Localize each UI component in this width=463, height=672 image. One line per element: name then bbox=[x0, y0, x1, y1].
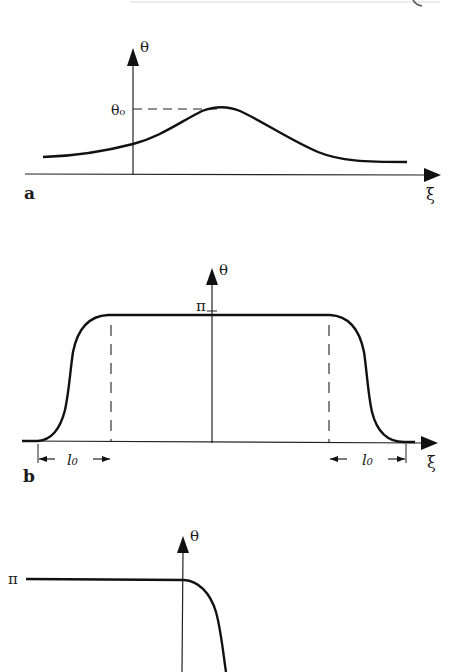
panel-b-y-arrow-icon bbox=[206, 268, 218, 285]
figure-canvas: θ θ₀ a ξ l₀ l₀ θ π b ξ bbox=[0, 0, 463, 672]
panel-a: θ θ₀ a ξ bbox=[24, 38, 441, 204]
panel-c: θ π bbox=[8, 527, 226, 672]
panel-b-x-arrow-icon bbox=[421, 436, 438, 450]
panel-a-theta-label: θ bbox=[140, 38, 149, 56]
panel-c-y-axis bbox=[182, 552, 183, 672]
panel-b-curve bbox=[22, 315, 415, 442]
panel-c-theta-label: θ bbox=[190, 527, 199, 545]
panel-b: l₀ l₀ θ π b ξ bbox=[22, 261, 438, 486]
panel-b-pi-label: π bbox=[196, 297, 206, 315]
panel-a-xi-label: ξ bbox=[426, 185, 435, 204]
panel-b-x-axis bbox=[22, 441, 425, 443]
panel-a-x-arrow-icon bbox=[424, 168, 441, 182]
top-crop-artifact bbox=[130, 0, 440, 6]
panel-a-curve bbox=[43, 107, 407, 162]
panel-b-right-width-label: l₀ bbox=[362, 451, 373, 469]
panel-c-y-arrow-icon bbox=[177, 536, 189, 553]
panel-a-theta0-label: θ₀ bbox=[111, 102, 125, 118]
panel-c-pi-label: π bbox=[8, 570, 18, 588]
panel-a-label: a bbox=[24, 183, 35, 203]
panel-b-left-width-label: l₀ bbox=[67, 451, 78, 469]
panel-b-label: b bbox=[23, 466, 35, 486]
panel-a-x-axis bbox=[25, 174, 428, 175]
panel-a-y-arrow-icon bbox=[127, 48, 139, 66]
panel-b-xi-label: ξ bbox=[427, 453, 436, 472]
panel-c-curve bbox=[26, 579, 226, 672]
panel-b-theta-label: θ bbox=[219, 261, 228, 279]
